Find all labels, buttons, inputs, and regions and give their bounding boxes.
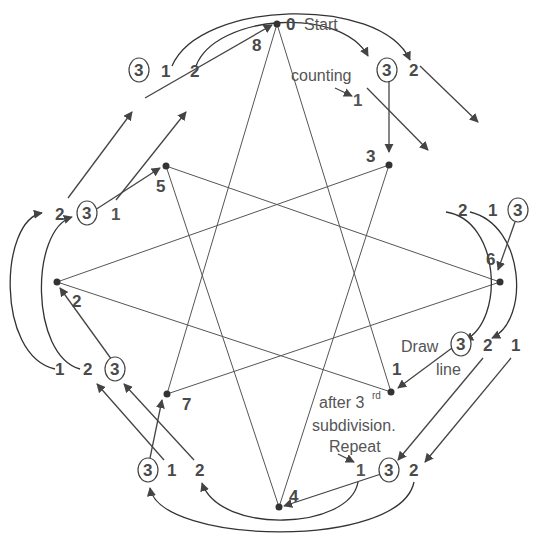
vertex-label-4: 4: [289, 487, 299, 506]
vertex-label-3: 3: [366, 147, 375, 166]
count-circled-3-bottom-left: 3: [143, 461, 152, 480]
vertex-dot-4: [276, 504, 283, 511]
arrow-1-to-right2: [367, 88, 428, 150]
note-after: after 3: [319, 394, 364, 411]
count-2-bottom-left: 2: [195, 461, 204, 480]
count-1-top-left: 1: [161, 62, 170, 81]
arrow-right3-to-v6: [498, 222, 515, 270]
vertex-label-5: 5: [156, 177, 165, 196]
count-1-bottom-right: 1: [356, 461, 365, 480]
note-subdivision: subdivision.: [312, 417, 396, 434]
arrow-left1-to-top2: [116, 112, 186, 200]
vertex-dot-3: [386, 162, 393, 169]
note-after-sup: rd: [372, 390, 381, 401]
vertex-label-2: 2: [72, 292, 81, 311]
star-lines: [57, 24, 500, 507]
count-1-lower-left: 1: [55, 360, 64, 379]
count-circled-3-top: 3: [382, 61, 391, 80]
count-circled-3-lower-left: 3: [110, 360, 119, 379]
arc-right-inner: [446, 212, 491, 340]
count-2-top: 2: [409, 61, 418, 80]
count-2-bottom-right: 2: [409, 461, 418, 480]
vertex-label-0: 0: [286, 15, 295, 34]
arrow-bottom3-to-v7: [150, 400, 162, 458]
vertex-labels: 0 8 3 5 6 2 1 7 4: [72, 15, 495, 506]
arrow-bottom3-to-v4: [284, 474, 381, 506]
star-diagram: 0 8 3 5 6 2 1 7 4 3 1 2 1 3 2 2 3 1 2 1 …: [0, 0, 536, 543]
vertex-dots: [54, 21, 504, 511]
note-line: line: [436, 361, 461, 378]
vertex-label-1: 1: [392, 360, 401, 379]
arrow-start-to-1: [335, 88, 352, 96]
vertex-label-7: 7: [182, 395, 191, 414]
note-draw: Draw: [401, 338, 439, 355]
arrow-left3-to-v5: [95, 168, 160, 210]
arrow-left3-to-v2: [60, 288, 112, 360]
count-circled-3-right-upper: 3: [513, 201, 522, 220]
count-2-top-left: 2: [190, 62, 199, 81]
vertex-dot-0: [274, 21, 281, 28]
vertex-label-8: 8: [252, 36, 261, 55]
count-circled-3-bottom-right: 3: [384, 461, 393, 480]
vertex-label-6: 6: [486, 250, 495, 269]
vertex-dot-5: [163, 163, 170, 170]
count-circled-3-left: 3: [82, 204, 91, 223]
arrow-2-to-right3: [420, 66, 478, 122]
star-edge-4-5: [166, 166, 279, 507]
arc-bottom-inner: [202, 482, 358, 520]
count-2-lower-left: 2: [83, 360, 92, 379]
vertex-dot-7: [164, 391, 171, 398]
star-edge-7-0: [167, 24, 277, 394]
count-1-right-upper: 1: [488, 201, 497, 220]
count-2-left: 2: [55, 205, 64, 224]
count-1-top: 1: [353, 91, 362, 110]
star-edge-3-4: [279, 165, 389, 507]
vertex-dot-6: [497, 279, 504, 286]
count-2-right-lower: 2: [483, 336, 492, 355]
note-start: Start: [304, 16, 338, 33]
count-circled-3-top-left: 3: [134, 61, 143, 80]
count-1-bottom-left: 1: [167, 461, 176, 480]
count-1-right-lower: 1: [511, 336, 520, 355]
star-edge-5-6: [166, 166, 500, 282]
arrow-repeat-to-1: [338, 454, 354, 462]
vertex-dot-1: [388, 389, 395, 396]
counting-arcs: [10, 14, 516, 532]
note-counting: counting: [291, 67, 352, 84]
count-2-right-upper: 2: [458, 201, 467, 220]
count-labels: 3 1 2 1 3 2 2 3 1 2 1 3 1 2 3 3 2 1 3 1 …: [55, 61, 522, 480]
arrow-left2-to-top3: [68, 112, 132, 198]
arc-left-outer: [10, 213, 55, 369]
note-repeat: Repeat: [329, 438, 381, 455]
vertex-dot-2: [54, 279, 61, 286]
count-circled-3-right-lower: 3: [456, 335, 465, 354]
arrow-1-to-left2: [97, 384, 164, 460]
arc-top-inner: [196, 22, 368, 66]
count-1-left: 1: [111, 205, 120, 224]
